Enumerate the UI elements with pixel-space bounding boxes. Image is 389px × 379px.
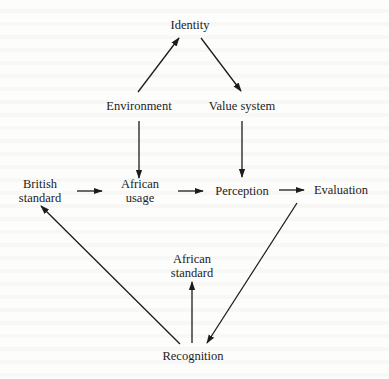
node-african-standard-line1: African [171, 252, 213, 266]
node-perception-label: Perception [215, 184, 268, 198]
node-evaluation: Evaluation [314, 183, 368, 197]
node-identity: Identity [171, 18, 210, 32]
node-african-standard-line2: standard [171, 266, 213, 280]
node-identity-label: Identity [171, 18, 210, 32]
node-african-usage-line2: usage [121, 191, 159, 205]
node-recognition: Recognition [162, 349, 223, 363]
node-british-standard-line1: British [19, 177, 61, 191]
node-evaluation-label: Evaluation [314, 183, 368, 197]
arrow-environment-to-identity [138, 38, 179, 92]
node-value-system: Value system [209, 99, 275, 113]
node-value-system-label: Value system [209, 99, 275, 113]
node-african-usage-line1: African [121, 177, 159, 191]
node-environment-label: Environment [106, 99, 171, 113]
node-african-usage: African usage [121, 177, 159, 205]
node-recognition-label: Recognition [162, 349, 223, 363]
node-environment: Environment [106, 99, 171, 113]
node-british-standard-line2: standard [19, 191, 61, 205]
node-perception: Perception [215, 184, 268, 198]
arrow-evaluation-to-recognition [207, 203, 297, 343]
arrow-identity-to-value-system [201, 38, 241, 91]
arrow-recognition-to-british-standard [41, 206, 180, 344]
node-british-standard: British standard [19, 177, 61, 205]
node-african-standard: African standard [171, 252, 213, 280]
